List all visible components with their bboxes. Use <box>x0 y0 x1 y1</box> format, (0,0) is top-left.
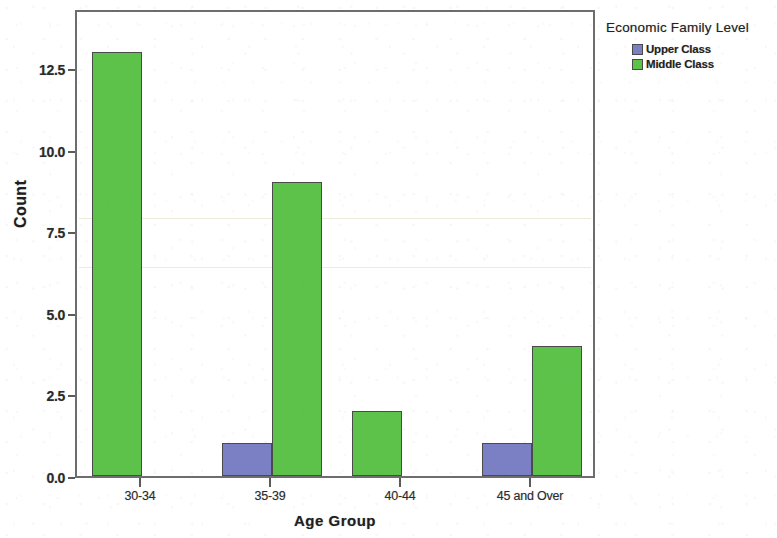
legend-item[interactable]: Upper Class <box>632 43 777 55</box>
bar-chart: Count 0.02.55.07.510.012.5 30-3435-3940-… <box>0 0 777 538</box>
x-axis-tick-label: 40-44 <box>385 489 416 503</box>
scan-artifact-line <box>79 267 591 268</box>
y-axis-tick: 7.5 <box>46 225 75 241</box>
x-axis-tick-mark <box>399 478 401 487</box>
y-axis-tick: 12.5 <box>39 62 75 78</box>
y-axis-tick-mark <box>68 477 75 479</box>
legend-swatch-icon <box>632 44 643 55</box>
plot-area <box>75 10 595 478</box>
bar-middle-class-40-44 <box>352 411 402 476</box>
y-axis-tick-mark <box>68 395 75 397</box>
legend: Economic Family Level Upper ClassMiddle … <box>606 20 777 73</box>
y-axis-tick-label: 10.0 <box>39 144 68 160</box>
x-axis-tick-mark <box>139 478 141 487</box>
legend-items: Upper ClassMiddle Class <box>606 43 777 70</box>
bar-middle-class-35-39 <box>272 182 322 476</box>
y-axis-tick-label: 5.0 <box>46 307 68 323</box>
bar-middle-class-30-34 <box>92 52 142 476</box>
legend-swatch-icon <box>632 59 643 70</box>
y-axis-tick-label: 2.5 <box>46 388 68 404</box>
bar-upper-class-35-39 <box>222 443 272 476</box>
x-axis-tick-label: 45 and Over <box>497 489 564 503</box>
y-axis-tick-label: 0.0 <box>46 470 68 486</box>
y-axis-tick: 5.0 <box>46 307 75 323</box>
bar-upper-class-45-and-over <box>482 443 532 476</box>
y-axis-tick: 2.5 <box>46 388 75 404</box>
x-axis-tick-label: 35-39 <box>255 489 286 503</box>
y-axis-tick-label: 12.5 <box>39 62 68 78</box>
x-axis-title: Age Group <box>75 512 595 529</box>
x-axis-tick-mark <box>529 478 531 487</box>
y-axis-tick-mark <box>68 69 75 71</box>
x-axis-tick-mark <box>269 478 271 487</box>
y-axis-tick-mark <box>68 151 75 153</box>
y-axis-tick: 0.0 <box>46 470 75 486</box>
plot-inner <box>77 12 593 476</box>
y-axis-tick: 10.0 <box>39 144 75 160</box>
legend-title: Economic Family Level <box>606 20 777 35</box>
y-axis-title: Count <box>12 202 30 228</box>
x-axis-tick-label: 30-34 <box>125 489 156 503</box>
scan-artifact-line <box>79 218 591 219</box>
y-axis-tick-label: 7.5 <box>46 225 68 241</box>
legend-item[interactable]: Middle Class <box>632 58 777 70</box>
y-axis-tick-mark <box>68 232 75 234</box>
bar-middle-class-45-and-over <box>532 346 582 476</box>
legend-label: Middle Class <box>646 58 714 70</box>
y-axis-tick-mark <box>68 314 75 316</box>
legend-label: Upper Class <box>646 43 711 55</box>
